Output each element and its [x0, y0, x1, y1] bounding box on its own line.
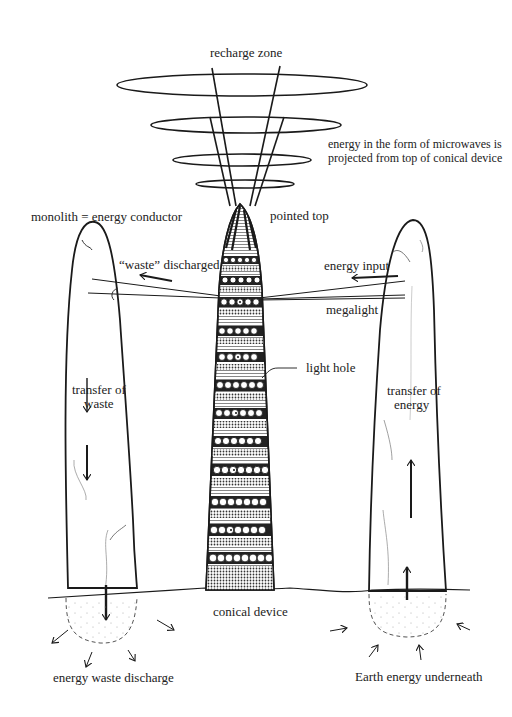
label-transfer-waste-1: transfer of: [72, 383, 126, 397]
ring-2: [151, 117, 341, 133]
label-monolith: monolith = energy conductor: [31, 210, 182, 224]
label-energy-waste-discharge: energy waste discharge: [53, 671, 174, 685]
label-transfer-waste-2: waste: [84, 397, 114, 411]
microwave-beam-lines: [210, 66, 284, 206]
label-earth-energy: Earth energy underneath: [355, 670, 483, 684]
label-pointed-top: pointed top: [270, 209, 329, 223]
label-megalight: megalight: [326, 303, 378, 317]
waste-discharged-arrow: [140, 275, 172, 281]
label-transfer-energy-1: transfer of: [387, 384, 441, 398]
light-hole-leader: [262, 368, 297, 378]
label-microwaves-line1: energy in the form of microwaves is: [328, 137, 502, 151]
label-energy-input: energy input: [324, 259, 389, 273]
ring-1: [117, 74, 367, 96]
label-conical-device: conical device: [213, 605, 288, 619]
left-monolith: [66, 222, 138, 620]
recharge-zone-rings: [117, 74, 367, 188]
label-waste-discharged: “waste” discharged: [119, 258, 219, 272]
earth-energy-zone: [369, 594, 446, 637]
ring-3: [173, 154, 311, 166]
label-microwaves-line2: projected from top of conical device: [328, 151, 502, 165]
label-light-hole: light hole: [306, 361, 355, 375]
waste-discharge-zone: [66, 598, 137, 643]
label-recharge-zone: recharge zone: [210, 46, 282, 60]
label-transfer-energy-2: energy: [394, 398, 429, 412]
ring-4: [196, 180, 294, 188]
